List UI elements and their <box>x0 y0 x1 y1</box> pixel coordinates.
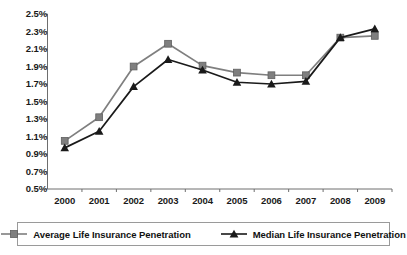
legend-key-average-square-icon <box>1 228 27 240</box>
legend-entry-median: Median Life Insurance Penetration <box>221 228 406 240</box>
legend-label-median: Median Life Insurance Penetration <box>253 229 406 240</box>
chart-legend: Average Life Insurance Penetration Media… <box>17 222 390 246</box>
life-insurance-penetration-chart: 0.5%0.7%0.9%1.1%1.3%1.5%1.7%1.9%2.1%2.3%… <box>0 0 407 255</box>
x-axis-tick-labels: 2000200120022003200420052006200720082009 <box>0 0 407 215</box>
plot-area: 0.5%0.7%0.9%1.1%1.3%1.5%1.7%1.9%2.1%2.3%… <box>0 0 407 215</box>
legend-label-average: Average Life Insurance Penetration <box>33 229 190 240</box>
legend-key-median-triangle-icon <box>221 228 247 240</box>
x-axis-tick-label: 2009 <box>353 195 397 206</box>
legend-entry-average: Average Life Insurance Penetration <box>1 228 190 240</box>
